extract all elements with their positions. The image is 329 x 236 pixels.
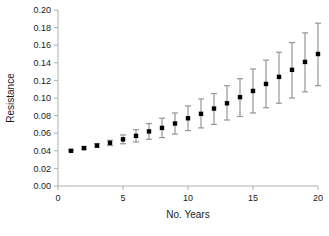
data-point-marker [264,82,268,86]
data-point-marker [160,126,164,130]
chart-canvas: 0.000.020.040.060.080.100.120.140.160.18… [0,0,329,236]
y-tick-label: 0.20 [33,5,51,15]
x-tick-label: 0 [55,193,60,203]
x-tick-label: 20 [313,193,323,203]
y-tick-label: 0.18 [33,23,51,33]
x-tick-label: 5 [120,193,125,203]
x-tick-label: 10 [183,193,193,203]
resistance-vs-years-chart: 0.000.020.040.060.080.100.120.140.160.18… [0,0,329,236]
y-tick-label: 0.08 [33,111,51,121]
y-tick-label: 0.10 [33,93,51,103]
data-point-marker [108,141,112,145]
data-point-marker [212,106,216,110]
data-point-marker [95,143,99,147]
data-point-marker [238,95,242,99]
data-point-marker [290,68,294,72]
y-tick-label: 0.04 [33,146,51,156]
x-tick-label: 15 [248,193,258,203]
data-point-marker [186,116,190,120]
data-point-marker [277,75,281,79]
data-point-marker [121,137,125,141]
data-point-marker [251,89,255,93]
y-axis-title: Resistance [5,73,16,123]
data-point-marker [134,134,138,138]
data-point-marker [69,149,73,153]
y-tick-label: 0.16 [33,40,51,50]
data-point-marker [316,52,320,56]
data-point-marker [147,129,151,133]
data-point-marker [199,112,203,116]
y-tick-label: 0.06 [33,128,51,138]
data-point-marker [82,146,86,150]
y-tick-label: 0.12 [33,76,51,86]
y-tick-label: 0.02 [33,164,51,174]
data-point-marker [173,121,177,125]
data-point-marker [303,60,307,64]
data-point-marker [225,101,229,105]
y-tick-label: 0.00 [33,181,51,191]
x-axis-title: No. Years [166,209,209,220]
y-tick-label: 0.14 [33,58,51,68]
